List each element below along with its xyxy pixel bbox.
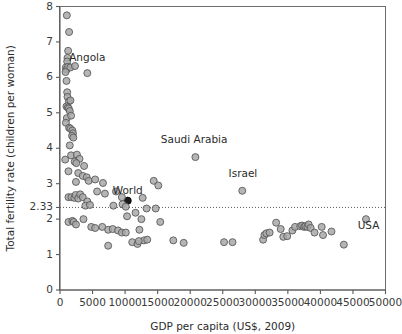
data-point — [68, 112, 75, 119]
x-tick-label: 25000 — [206, 296, 239, 308]
data-point — [84, 70, 91, 77]
data-point — [65, 168, 72, 175]
y-tick-label: 6 — [46, 70, 53, 82]
data-point — [63, 77, 70, 84]
data-point — [320, 232, 327, 239]
y-tick-label: 4 — [46, 141, 53, 153]
data-point — [72, 221, 79, 228]
point-annotation-israel: Israel — [229, 167, 258, 179]
x-tick-label: 35000 — [271, 296, 304, 308]
y-tick-label: 7 — [46, 35, 53, 47]
data-point — [72, 178, 79, 185]
data-point — [138, 216, 145, 223]
x-tick-label: 45000 — [336, 296, 369, 308]
data-point — [277, 226, 284, 233]
point-annotation-saudi-arabia: Saudi Arabia — [161, 133, 228, 145]
data-point — [92, 176, 99, 183]
data-point — [180, 239, 187, 246]
data-points-layer — [62, 12, 370, 249]
data-point — [136, 226, 143, 233]
data-point — [229, 239, 236, 246]
data-point — [221, 239, 228, 246]
data-point — [328, 228, 335, 235]
y-tick-label: 8 — [46, 0, 53, 12]
data-point — [157, 218, 164, 225]
data-point — [124, 213, 131, 220]
fertility-gdp-scatter-figure: 0122.33345678050001000015000200002500030… — [0, 0, 402, 334]
x-tick-label: 0 — [57, 296, 64, 308]
data-point — [143, 205, 150, 212]
point-annotation-angola: Angola — [69, 51, 105, 63]
x-tick-label: 40000 — [304, 296, 337, 308]
data-point — [284, 233, 291, 240]
scatter-plot-canvas: 0122.33345678050001000015000200002500030… — [0, 0, 402, 334]
data-point — [122, 203, 129, 210]
data-point — [192, 154, 199, 161]
data-point — [85, 177, 92, 184]
data-point — [80, 216, 87, 223]
x-tick-label: 10000 — [108, 296, 141, 308]
data-point — [110, 202, 117, 209]
data-point — [94, 188, 101, 195]
x-tick-label: 15000 — [141, 296, 174, 308]
data-point — [122, 229, 129, 236]
point-annotation-usa: USA — [358, 219, 381, 231]
data-point — [63, 12, 70, 19]
data-point — [144, 236, 151, 243]
data-point — [62, 69, 69, 76]
data-point — [132, 209, 139, 216]
x-tick-label: 5000 — [79, 296, 106, 308]
data-point — [71, 63, 78, 70]
y-tick-label: 0 — [46, 283, 53, 295]
x-tick-label: 50000 — [369, 296, 402, 308]
data-point — [81, 162, 88, 169]
data-point — [340, 241, 347, 248]
data-point — [92, 224, 99, 231]
y-tick-label: 2 — [46, 212, 53, 224]
data-point — [311, 229, 318, 236]
data-point — [99, 179, 106, 186]
data-point — [73, 160, 80, 167]
point-annotation-world: World — [113, 184, 143, 196]
data-point — [155, 182, 162, 189]
data-point — [105, 242, 112, 249]
data-point — [152, 205, 159, 212]
y-tick-label: 2.33 — [30, 200, 53, 212]
data-point — [66, 29, 73, 36]
x-axis-title: GDP per capita (US$, 2009) — [150, 320, 295, 332]
data-point — [239, 187, 246, 194]
data-point — [273, 219, 280, 226]
y-tick-label: 3 — [46, 177, 53, 189]
data-point — [170, 237, 177, 244]
data-point — [86, 201, 93, 208]
data-point — [70, 134, 77, 141]
data-point — [135, 238, 142, 245]
data-point — [66, 142, 73, 149]
data-point — [266, 229, 273, 236]
x-tick-label: 30000 — [239, 296, 272, 308]
data-point — [318, 223, 325, 230]
axis-ticks-layer: 0122.33345678050001000015000200002500030… — [30, 0, 402, 308]
y-tick-label: 1 — [46, 248, 53, 260]
x-tick-label: 20000 — [173, 296, 206, 308]
y-axis-title: Total fertility rate (children per woman… — [4, 45, 16, 252]
y-tick-label: 5 — [46, 106, 53, 118]
data-point — [101, 190, 108, 197]
